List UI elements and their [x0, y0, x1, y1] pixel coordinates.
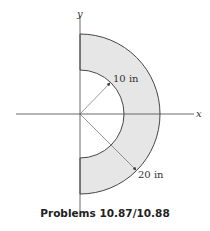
- figure-caption: Problems 10.87/10.88: [0, 207, 210, 219]
- outer-radius-label: 20 in: [138, 169, 164, 180]
- inner-radius-line: [80, 83, 110, 114]
- figure-diagram: y x 10 in 20 in: [0, 0, 210, 231]
- y-axis-label: y: [76, 8, 83, 19]
- x-axis-label: x: [196, 108, 202, 119]
- inner-radius-label: 10 in: [113, 73, 139, 84]
